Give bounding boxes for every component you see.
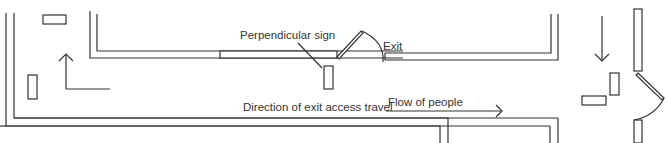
flow-label: Flow of people <box>388 97 463 109</box>
room-wall-segment-right <box>385 14 558 60</box>
down-arrow <box>595 16 609 61</box>
perpendicular-sign-near-exit <box>324 66 333 89</box>
direction-label: Direction of exit access travel <box>243 102 393 114</box>
exit-label: Exit <box>383 41 402 53</box>
wall-sign-right <box>582 96 606 105</box>
exit-diagram: Perpendicular sign Exit Direction of exi… <box>0 0 668 143</box>
perpendicular-sign-label: Perpendicular sign <box>240 30 335 42</box>
perpendicular-sign-right <box>610 73 619 95</box>
up-turn-arrow <box>59 54 110 89</box>
outer-corridor-wall <box>0 13 448 143</box>
room-wall-segment-left-of-door <box>220 51 337 58</box>
wall-sign-top-left <box>43 15 66 24</box>
corridor-lower-wall <box>6 118 558 143</box>
exit-door-room <box>337 31 383 62</box>
floor-plan-drawing <box>0 0 668 143</box>
wall-sign-left <box>28 75 37 99</box>
right-wall-with-door <box>634 9 664 143</box>
